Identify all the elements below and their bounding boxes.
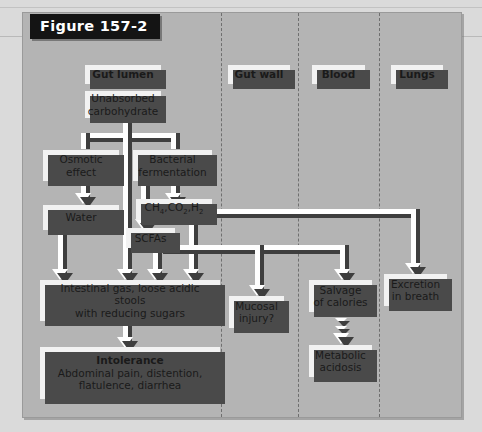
diagram-panel: Gut lumen Gut wall Blood Lungs Unabsorbe… [22, 12, 462, 418]
node-intolerance: Intolerance Abdominal pain, distention, … [40, 347, 220, 399]
connector-gases-to-lungs [205, 209, 416, 214]
node-intestinal-gas: Intestinal gas, loose acidic stools with… [40, 280, 220, 321]
arrowhead-carb-intestinal [117, 269, 133, 280]
node-mucosal-injury: Mucosal injury? [229, 296, 284, 328]
figure-title: Figure 157-2 [30, 14, 160, 39]
column-header-lungs: Lungs [391, 65, 443, 84]
chevron-salvage-2 [335, 326, 347, 332]
node-excretion-in-breath-line1: Excretion [391, 278, 440, 291]
column-header-gut-lumen-label: Gut lumen [92, 68, 153, 81]
node-water-label: Water [65, 211, 96, 224]
node-mucosal-injury-line2: injury? [239, 312, 274, 325]
node-excretion-in-breath: Excretion in breath [384, 274, 447, 306]
arrowhead-salvage-metabolic [333, 333, 349, 344]
node-intolerance-line1: Abdominal pain, distention, [58, 367, 203, 380]
page-rule-top [0, 7, 482, 8]
node-unabsorbed-carbohydrate: Unabsorbed carbohydrate [85, 91, 161, 118]
column-header-lungs-label: Lungs [399, 68, 434, 81]
arrowhead-scfas-mucosal [249, 285, 265, 296]
connector-scfas-trunk [163, 245, 345, 250]
arrowhead-water-intestinal [52, 269, 68, 280]
node-excretion-in-breath-line2: in breath [392, 290, 439, 303]
node-osmotic-effect: Osmotic effect [43, 150, 119, 181]
node-mucosal-injury-line1: Mucosal [235, 300, 278, 313]
node-unabsorbed-carbohydrate-line2: carbohydrate [88, 105, 158, 118]
node-metabolic-acidosis-line1: Metabolic [315, 349, 366, 362]
connector-to-bacterial [171, 133, 176, 149]
node-metabolic-acidosis: Metabolic acidosis [309, 345, 372, 377]
node-water: Water [43, 205, 119, 230]
node-gases: CH4,CO2,H2 [136, 199, 212, 220]
column-header-blood: Blood [312, 65, 365, 84]
node-intestinal-gas-line2: with reducing sugars [75, 307, 185, 320]
divider-gut-wall-blood [298, 13, 299, 417]
connector-unabsorbed-split [81, 133, 176, 138]
node-intolerance-title: Intolerance [96, 354, 163, 367]
column-header-gut-wall: Gut wall [228, 65, 290, 84]
node-metabolic-acidosis-line2: acidosis [319, 361, 361, 374]
arrowhead-scfas-intestinal [147, 269, 163, 280]
column-header-blood-label: Blood [322, 68, 356, 81]
arrowhead-osmotic-water [75, 193, 91, 204]
column-header-gut-wall-label: Gut wall [235, 68, 284, 81]
connector-gases-down-lungs [411, 209, 416, 271]
node-salvage-of-calories-line1: Salvage [320, 284, 362, 297]
column-header-gut-lumen: Gut lumen [85, 65, 161, 84]
divider-blood-lungs [379, 13, 380, 417]
arrowhead-gases-excretion [405, 263, 421, 274]
node-scfas-label: SCFAs [135, 232, 167, 245]
figure-root: Gut lumen Gut wall Blood Lungs Unabsorbe… [0, 0, 482, 432]
node-salvage-of-calories: Salvage of calories [309, 280, 372, 312]
node-intolerance-line2: flatulence, diarrhea [79, 379, 182, 392]
connector-to-osmotic [81, 133, 86, 149]
node-salvage-of-calories-line2: of calories [313, 296, 367, 309]
node-unabsorbed-carbohydrate-line1: Unabsorbed [91, 92, 154, 105]
node-gases-formula: CH4,CO2,H2 [145, 201, 204, 219]
node-bacterial-fermentation: Bacterial fermentation [133, 150, 212, 181]
node-bacterial-fermentation-line2: fermentation [138, 166, 206, 179]
node-osmotic-effect-line2: effect [66, 166, 96, 179]
chevron-salvage-1 [335, 318, 347, 324]
node-intestinal-gas-line1: Intestinal gas, loose acidic stools [44, 282, 216, 307]
node-scfas: SCFAs [126, 228, 175, 248]
node-bacterial-fermentation-line1: Bacterial [149, 153, 196, 166]
arrowhead-gases-intestinal [183, 269, 199, 280]
node-osmotic-effect-line1: Osmotic [59, 153, 102, 166]
arrowhead-scfas-salvage [334, 269, 350, 280]
